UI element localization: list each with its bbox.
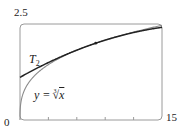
tangency-point — [94, 42, 97, 45]
curve-label-prefix: y = — [34, 88, 53, 102]
t2-label: T2 — [29, 53, 40, 68]
curve-label-variable: x — [59, 88, 64, 102]
t2-label-subscript: 2 — [36, 59, 40, 68]
chart-canvas — [0, 0, 183, 129]
t2-label-main: T — [29, 52, 36, 66]
curve-label: y = 3√x — [34, 89, 64, 101]
x-max-label: 15 — [166, 112, 177, 123]
plot-frame-rect — [20, 24, 162, 120]
cube-root-curve — [20, 25, 162, 120]
y-max-label: 2.5 — [14, 7, 28, 18]
curve-label-root-index: 3 — [53, 88, 56, 94]
x-min-label: 0 — [4, 117, 10, 128]
plot-frame — [20, 24, 162, 120]
